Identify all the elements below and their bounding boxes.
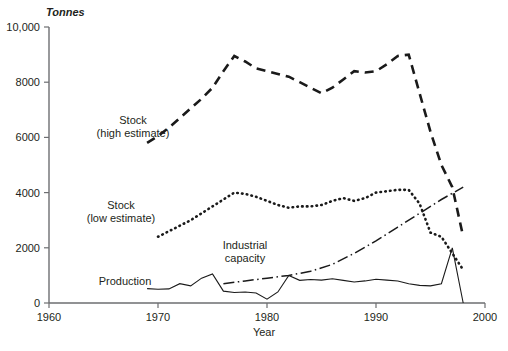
series-stock-low-estimate <box>158 190 463 270</box>
stock-high-label-line1: Stock <box>119 114 147 126</box>
series-production <box>147 248 463 303</box>
series-industrial-capacity <box>223 187 463 284</box>
stock-high-label-line2: (high estimate) <box>97 127 170 139</box>
series-group <box>147 55 463 303</box>
x-tick-label: 2000 <box>473 311 497 323</box>
y-axis-unit-label: Tonnes <box>46 6 85 18</box>
x-tick-label: 1970 <box>146 311 170 323</box>
annotations-group: Tonnes Year Stock (high estimate) Stock … <box>46 6 275 338</box>
production-label: Production <box>99 275 152 287</box>
series-stock-high-estimate <box>147 55 463 237</box>
y-tick-label: 8000 <box>16 76 40 88</box>
x-tick-label: 1960 <box>37 311 61 323</box>
x-axis-ticks: 19601970198019902000 <box>37 303 497 323</box>
stock-low-label-line2: (low estimate) <box>87 212 155 224</box>
y-tick-label: 6000 <box>16 131 40 143</box>
x-tick-label: 1980 <box>255 311 279 323</box>
stock-high-annotation: Stock (high estimate) <box>97 114 170 139</box>
y-tick-label: 0 <box>34 297 40 309</box>
y-axis-ticks: 0200040006000800010,000 <box>6 21 49 309</box>
x-tick-label: 1990 <box>364 311 388 323</box>
stock-low-annotation: Stock (low estimate) <box>87 199 155 224</box>
y-tick-label: 2000 <box>16 242 40 254</box>
industrial-capacity-annotation: Industrial capacity <box>223 239 268 264</box>
axes-group: 0200040006000800010,000 1960197019801990… <box>6 21 497 323</box>
y-tick-label: 10,000 <box>6 21 40 33</box>
industrial-capacity-label-line1: Industrial <box>223 239 268 251</box>
chart-container: 0200040006000800010,000 1960197019801990… <box>0 0 508 351</box>
stock-low-label-line1: Stock <box>107 199 135 211</box>
y-tick-label: 4000 <box>16 187 40 199</box>
x-axis-title: Year <box>253 326 276 338</box>
line-chart: 0200040006000800010,000 1960197019801990… <box>0 0 508 351</box>
industrial-capacity-label-line2: capacity <box>225 252 266 264</box>
